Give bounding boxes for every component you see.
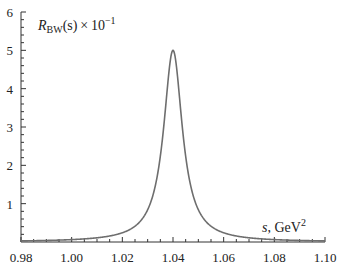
x-tick-label: 1.06 <box>212 250 235 265</box>
x-tick-label: 1.02 <box>111 250 134 265</box>
y-tick-label: 6 <box>7 5 14 20</box>
x-tick-label: 1.10 <box>314 250 337 265</box>
x-tick-label: 1.08 <box>263 250 286 265</box>
breit-wigner-curve <box>21 50 325 241</box>
y-tick-label: 3 <box>7 120 14 135</box>
y-tick-label: 5 <box>7 43 14 58</box>
y-tick-label: 1 <box>7 197 14 212</box>
x-axis-label: s, GeV2 <box>262 217 306 235</box>
x-tick-label: 0.98 <box>10 250 33 265</box>
x-tick-label: 1.00 <box>60 250 83 265</box>
curve-layer <box>21 50 325 241</box>
y-tick-label: 2 <box>7 158 14 173</box>
y-axis-label: RBW(s) × 10−1 <box>37 15 116 35</box>
y-tick-label: 4 <box>7 82 14 97</box>
breit-wigner-chart: 0.981.001.021.041.061.081.10123456 RBW(s… <box>0 0 338 268</box>
x-tick-label: 1.04 <box>162 250 185 265</box>
